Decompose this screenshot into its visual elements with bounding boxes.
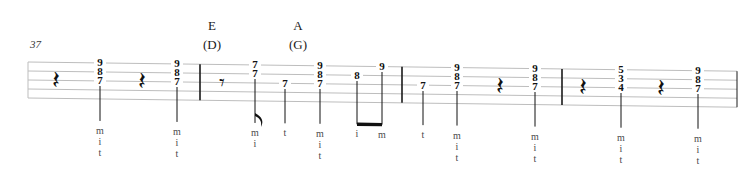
fingering-letter: i (351, 128, 363, 139)
fingering-letter: i (171, 137, 183, 148)
chord-symbol: A (278, 18, 318, 34)
fingering-letter: t (451, 152, 463, 163)
fret-number: 4 (615, 82, 627, 93)
fingering-letter: m (314, 128, 326, 139)
fingering-letter: i (692, 144, 704, 155)
fingering-letter: m (451, 130, 463, 141)
fingering-letter: i (314, 139, 326, 150)
fingering-letter: m (94, 125, 106, 136)
fret-number: 7 (692, 83, 704, 94)
fret-number: 7 (451, 80, 463, 91)
fingering-indication: mit (529, 131, 541, 164)
fingering-letter: i (529, 142, 541, 153)
fret-number: 7 (94, 75, 106, 86)
fret-number: 7 (417, 80, 429, 91)
fingering-indication: mit (692, 133, 704, 166)
fingering-indication: mi (249, 127, 261, 149)
fingering-letter: m (249, 127, 261, 138)
fingering-letter: i (615, 143, 627, 154)
fret-number: 7 (171, 76, 183, 87)
fingering-indication: m (376, 129, 388, 140)
fingering-indication: mit (171, 126, 183, 159)
fingering-letter: m (529, 131, 541, 142)
chord-symbol: E (192, 18, 232, 34)
fret-number: 7 (249, 68, 261, 79)
fingering-letter: i (249, 138, 261, 149)
fingering-letter: i (94, 136, 106, 147)
fingering-indication: mit (314, 128, 326, 161)
fingering-letter: t (314, 150, 326, 161)
fingering-letter: t (615, 154, 627, 165)
fingering-letter: m (171, 126, 183, 137)
fret-number: 9 (376, 61, 388, 72)
fingering-indication: t (417, 129, 429, 140)
fingering-letter: t (692, 155, 704, 166)
fingering-indication: mit (94, 125, 106, 158)
fingering-letter: t (417, 129, 429, 140)
fingering-letter: m (692, 133, 704, 144)
fingering-letter: m (615, 132, 627, 143)
fingering-letter: m (376, 129, 388, 140)
fret-number: 8 (351, 70, 363, 81)
fingering-letter: t (279, 127, 291, 138)
chord-symbol-alternate: (D) (192, 37, 232, 53)
fingering-indication: mit (615, 132, 627, 165)
fret-number: 7 (314, 78, 326, 89)
fingering-letter: t (171, 148, 183, 159)
fingering-indication: i (351, 128, 363, 139)
fingering-letter: t (529, 153, 541, 164)
fret-number: 7 (529, 81, 541, 92)
fingering-letter: i (451, 141, 463, 152)
fret-number: 7 (279, 78, 291, 89)
eighth-note-flag (255, 113, 262, 127)
fingering-letter: t (94, 147, 106, 158)
tablature-staff-graphics (0, 0, 756, 170)
fingering-indication: t (279, 127, 291, 138)
chord-symbol-alternate: (G) (278, 37, 318, 53)
fingering-indication: mit (451, 130, 463, 163)
tablature-sheet: 37 𝄽987mit𝄽987mit𝄾77mi7t987mit8i9m7t987m… (0, 0, 756, 170)
